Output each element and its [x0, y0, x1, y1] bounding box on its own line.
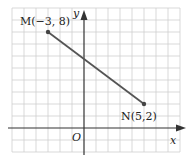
coordinate-plane: M(−3, 8) N(5,2) y x O	[0, 0, 192, 167]
x-axis	[8, 125, 186, 132]
grid	[12, 8, 180, 152]
point-m-label: M(−3, 8)	[20, 15, 70, 28]
x-axis-label: x	[170, 134, 177, 147]
origin-label: O	[72, 131, 81, 144]
point-n	[142, 102, 146, 106]
y-axis-label: y	[72, 7, 80, 20]
point-m	[46, 30, 50, 34]
point-n-label: N(5,2)	[121, 110, 157, 123]
x-axis-arrow-icon	[176, 125, 186, 132]
y-axis-arrow-icon	[81, 10, 88, 20]
